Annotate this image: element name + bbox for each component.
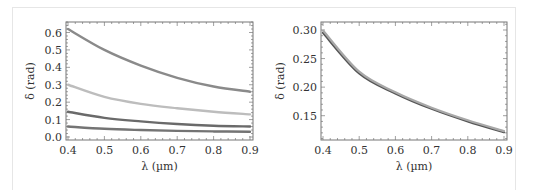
x-tick-label: 0.9 (495, 144, 513, 157)
x-tick-label: 0.4 (59, 144, 77, 157)
x-tick-label: 0.4 (314, 144, 332, 157)
x-tick-label: 0.5 (350, 144, 368, 157)
y-axis-label: δ (rad) (24, 62, 37, 100)
y-tick-label: 0.6 (45, 27, 63, 40)
y-tick-label: 0.25 (293, 53, 318, 66)
x-axis-label: λ (µm) (141, 160, 178, 173)
x-tick-label: 0.5 (96, 144, 114, 157)
x-tick-label: 0.8 (205, 144, 223, 157)
x-tick-label: 0.6 (387, 144, 405, 157)
chart-canvas: 0.40.50.60.70.80.90.00.10.20.30.40.50.6λ… (0, 0, 533, 190)
x-tick-label: 0.7 (423, 144, 441, 157)
y-tick-label: 0.20 (293, 81, 318, 94)
x-axis-label: λ (µm) (396, 160, 433, 173)
x-tick-label: 0.6 (132, 144, 150, 157)
y-tick-label: 0.1 (45, 114, 63, 127)
series-line-curve-dark (323, 33, 504, 132)
series-line-curve-light (323, 31, 504, 132)
y-tick-label: 0.2 (45, 96, 63, 109)
y-tick-label: 0.4 (45, 61, 63, 74)
x-tick-label: 0.9 (241, 144, 259, 157)
series-line-curve-3 (68, 112, 250, 127)
series-line-curve-4 (68, 127, 250, 132)
y-tick-label: 0.30 (293, 24, 318, 37)
axes-frame (321, 22, 507, 140)
y-axis-label: δ (rad) (274, 62, 287, 100)
plot-1: 0.40.50.60.70.80.90.00.10.20.30.40.50.6λ… (24, 22, 259, 173)
x-tick-label: 0.7 (168, 144, 186, 157)
series-line-curve-1 (68, 29, 250, 92)
y-tick-label: 0.5 (45, 44, 63, 57)
x-tick-label: 0.8 (459, 144, 477, 157)
y-tick-label: 0.15 (293, 110, 318, 123)
y-tick-label: 0.3 (45, 79, 63, 92)
plot-2: 0.40.50.60.70.80.90.150.200.250.30λ (µm)… (274, 22, 513, 173)
y-tick-label: 0.0 (45, 131, 63, 144)
